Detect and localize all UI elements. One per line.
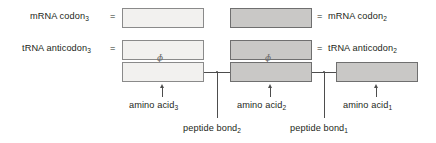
amino-acid-3-arrow-icon	[160, 84, 164, 88]
amino-acid-1-arrow-icon	[374, 84, 378, 88]
amino-acid-1-pointer-line	[376, 88, 377, 97]
trna-anticodon-2-box	[230, 40, 312, 60]
amino-acid-2-box	[230, 62, 312, 82]
amino-acid-1-box	[336, 62, 418, 82]
trna-anticodon-3-box	[122, 40, 204, 60]
amino-acid-3-box	[122, 62, 204, 82]
label-mrna-codon-3: mRNA codon3	[30, 12, 89, 21]
peptide-bond-diagram: mRNA codon3 = tRNA anticodon3 = = mRNA c…	[0, 0, 436, 143]
equals-sign-mrna-codon-2: =	[317, 12, 322, 21]
peptide-bond-1-leader	[324, 72, 325, 118]
label-amino-acid-1: amino acid1	[343, 101, 392, 110]
label-trna-anticodon-3: tRNA anticodon3	[22, 44, 91, 53]
amino-acid-3-pointer-line	[162, 88, 163, 97]
equals-sign-trna-anticodon-2: =	[317, 44, 322, 53]
label-trna-anticodon-2: tRNA anticodon2	[328, 44, 397, 53]
label-amino-acid-3: amino acid3	[129, 101, 178, 110]
label-peptide-bond-2: peptide bond2	[183, 124, 241, 133]
amino-acid-2-arrow-icon	[268, 84, 272, 88]
label-mrna-codon-2: mRNA codon2	[328, 12, 387, 21]
label-peptide-bond-1: peptide bond1	[290, 124, 348, 133]
equals-sign-mrna-codon-3: =	[110, 12, 115, 21]
peptide-bond-2-leader	[217, 72, 218, 118]
amino-acid-2-pointer-line	[270, 88, 271, 97]
mrna-codon-3-box	[122, 8, 204, 28]
label-amino-acid-2: amino acid2	[237, 101, 286, 110]
mrna-codon-2-box	[230, 8, 312, 28]
equals-sign-trna-anticodon-3: =	[110, 44, 115, 53]
